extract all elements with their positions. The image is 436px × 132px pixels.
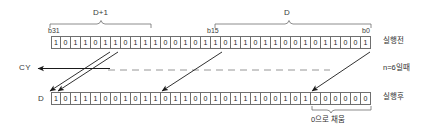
bit-cell: 1 xyxy=(51,92,61,105)
group-label-high-word: D+1 xyxy=(93,9,108,17)
bit-cell: 0 xyxy=(191,92,201,105)
bit-cell: 0 xyxy=(351,92,361,105)
bit-cell: 1 xyxy=(141,92,151,105)
bit-cell: 1 xyxy=(241,92,251,105)
bit-cell: 0 xyxy=(311,92,321,105)
bit-cell: 1 xyxy=(281,92,291,105)
bit-cell: 0 xyxy=(111,92,121,105)
bit-cell: 0 xyxy=(351,36,361,49)
bit-cell: 0 xyxy=(61,92,71,105)
bit-cell: 0 xyxy=(341,36,351,49)
bit-cell: 0 xyxy=(311,36,321,49)
bit-cell: 0 xyxy=(281,36,291,49)
bit-cell: 1 xyxy=(301,36,311,49)
carry-flag-label: CY xyxy=(19,64,31,72)
bit-cell: 1 xyxy=(151,92,161,105)
bit-cell: 1 xyxy=(211,36,221,49)
bit-label-lsb: b0 xyxy=(362,27,370,34)
bit-cell: 1 xyxy=(231,36,241,49)
bit-cell: 1 xyxy=(121,92,131,105)
bit-cell: 0 xyxy=(321,92,331,105)
bit-cell: 0 xyxy=(221,36,231,49)
brace-zero-fill xyxy=(312,106,371,113)
bit-cell: 1 xyxy=(131,36,141,49)
bit-cell: 0 xyxy=(341,92,351,105)
bit-cell: 1 xyxy=(91,92,101,105)
bit-cell: 0 xyxy=(91,36,101,49)
bit-cell: 0 xyxy=(291,36,301,49)
bit-cell: 0 xyxy=(171,36,181,49)
shift-arrow-high xyxy=(58,52,118,91)
bit-cell: 0 xyxy=(131,92,141,105)
bit-cell: 1 xyxy=(251,92,261,105)
diagram-artwork xyxy=(0,0,436,132)
bit-row-before: 10110110111001011011011001011001 xyxy=(51,36,371,49)
bit-cell: 1 xyxy=(361,36,371,49)
bit-cell: 1 xyxy=(81,92,91,105)
bit-cell: 0 xyxy=(161,36,171,49)
bit-cell: 1 xyxy=(211,92,221,105)
bit-cell: 0 xyxy=(271,92,281,105)
shift-arrow-mid xyxy=(162,52,222,91)
bit-cell: 0 xyxy=(261,92,271,105)
bit-cell: 1 xyxy=(51,36,61,49)
bit-label-mid: b15 xyxy=(207,27,219,34)
bit-cell: 0 xyxy=(161,92,171,105)
label-after-execution: 실행후 xyxy=(383,93,404,101)
bit-cell: 1 xyxy=(321,36,331,49)
bit-cell: 0 xyxy=(201,92,211,105)
bit-label-msb: b31 xyxy=(48,27,60,34)
shift-diagram: D+1 D b31 b15 b0 10110110111001011011011… xyxy=(0,0,436,132)
bit-cell: 1 xyxy=(331,36,341,49)
bit-cell: 1 xyxy=(101,36,111,49)
label-shift-amount: n=6일때 xyxy=(383,64,410,72)
bit-cell: 1 xyxy=(301,92,311,105)
bit-cell: 1 xyxy=(71,92,81,105)
bit-cell: 0 xyxy=(361,92,371,105)
bit-cell: 0 xyxy=(331,92,341,105)
destination-label: D xyxy=(38,95,44,103)
bit-cell: 1 xyxy=(241,36,251,49)
bit-cell: 1 xyxy=(151,36,161,49)
label-before-execution: 실행전 xyxy=(383,37,404,45)
group-label-low-word: D xyxy=(284,9,290,17)
bit-cell: 0 xyxy=(291,92,301,105)
bit-cell: 1 xyxy=(181,36,191,49)
bit-cell: 0 xyxy=(191,36,201,49)
bit-cell: 1 xyxy=(81,36,91,49)
bit-cell: 0 xyxy=(251,36,261,49)
bit-cell: 1 xyxy=(201,36,211,49)
bit-cell: 0 xyxy=(101,92,111,105)
bit-cell: 1 xyxy=(111,36,121,49)
bit-cell: 0 xyxy=(61,36,71,49)
bit-cell: 0 xyxy=(221,92,231,105)
bit-row-after: 10111001011011001011100101000000 xyxy=(51,92,371,105)
shift-arrow-lsb xyxy=(312,52,370,91)
zero-fill-caption: 0으로 채움 xyxy=(311,116,345,124)
shift-arrow-msb xyxy=(50,52,110,91)
bit-cell: 0 xyxy=(121,36,131,49)
bit-cell: 1 xyxy=(261,36,271,49)
bit-cell: 1 xyxy=(171,92,181,105)
bit-cell: 1 xyxy=(231,92,241,105)
brace-high-word xyxy=(50,21,151,29)
brace-low-word xyxy=(215,21,371,29)
bit-cell: 1 xyxy=(271,36,281,49)
bit-cell: 1 xyxy=(71,36,81,49)
bit-cell: 1 xyxy=(141,36,151,49)
bit-cell: 1 xyxy=(181,92,191,105)
